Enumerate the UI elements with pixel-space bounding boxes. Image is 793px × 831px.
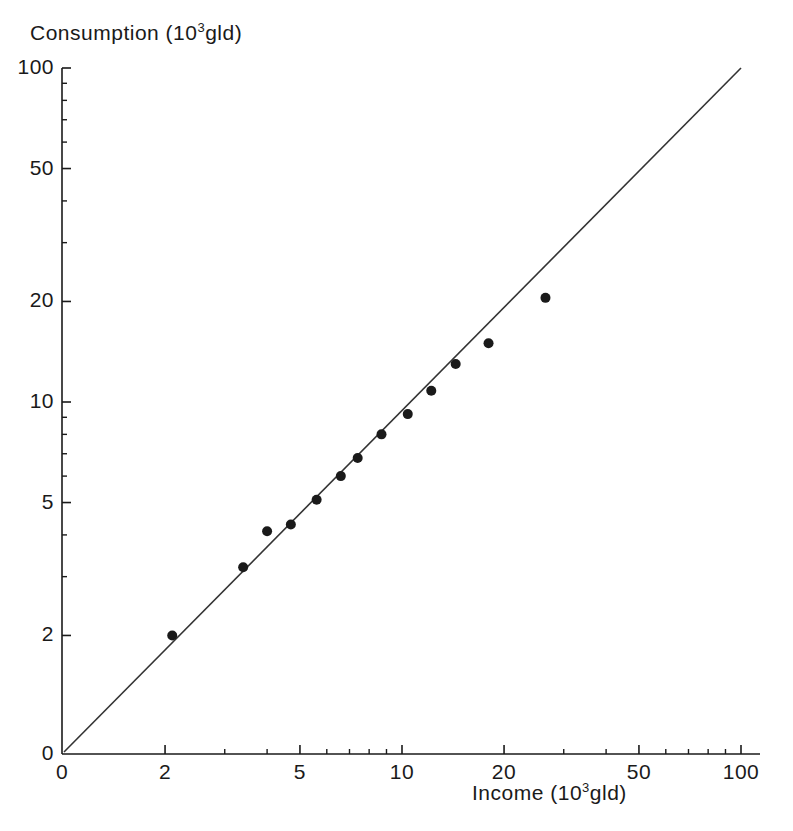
data-point	[353, 453, 363, 463]
chart-container: Consumption (103gld) Income (103gld) 025…	[0, 0, 793, 831]
plot-area	[0, 0, 793, 831]
x-tick-label: 20	[474, 760, 534, 784]
x-tick-label: 10	[372, 760, 432, 784]
data-point	[451, 359, 461, 369]
data-point	[403, 409, 413, 419]
x-tick-label: 2	[135, 760, 195, 784]
x-tick-label: 50	[609, 760, 669, 784]
data-point	[167, 630, 177, 640]
data-point	[312, 495, 322, 505]
y-tick-label: 5	[0, 490, 54, 514]
data-point	[336, 471, 346, 481]
x-tick-label: 0	[32, 760, 92, 784]
data-point	[238, 562, 248, 572]
x-tick-label: 100	[711, 760, 771, 784]
data-point	[540, 293, 550, 303]
data-point	[262, 526, 272, 536]
data-point	[484, 338, 494, 348]
y-tick-label: 50	[0, 156, 54, 180]
data-point	[426, 386, 436, 396]
y-tick-label: 10	[0, 389, 54, 413]
y-tick-label: 100	[0, 55, 54, 79]
identity-reference-line	[64, 68, 741, 752]
y-tick-label: 2	[0, 622, 54, 646]
data-points	[167, 293, 550, 641]
reference-line	[64, 68, 741, 752]
data-point	[376, 429, 386, 439]
data-point	[286, 519, 296, 529]
x-tick-label: 5	[270, 760, 330, 784]
y-tick-label: 20	[0, 288, 54, 312]
